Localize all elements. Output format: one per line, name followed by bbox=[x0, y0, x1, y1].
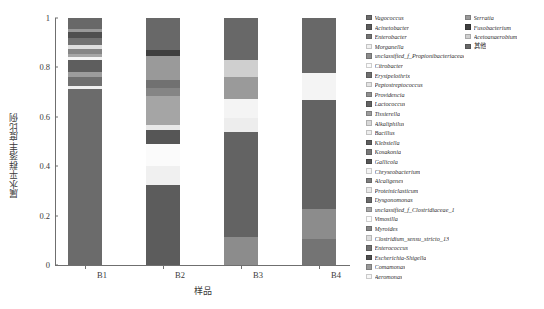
legend-swatch bbox=[366, 274, 372, 280]
legend-item[interactable]: Escherichia-Shigella bbox=[366, 253, 464, 263]
bar-segment[interactable] bbox=[302, 73, 336, 100]
bar-segment[interactable] bbox=[146, 70, 180, 80]
y-tick-label: 0.6 bbox=[39, 112, 55, 122]
bar-segment[interactable] bbox=[146, 166, 180, 185]
legend-label: Comamonas bbox=[375, 262, 406, 272]
bar-segment[interactable] bbox=[224, 77, 258, 99]
legend-item[interactable]: Aeromonas bbox=[366, 272, 464, 282]
bar-segment[interactable] bbox=[68, 60, 102, 73]
y-tick-label: 0.2 bbox=[39, 211, 55, 221]
legend-swatch bbox=[366, 63, 372, 69]
bar-segment[interactable] bbox=[68, 89, 102, 265]
legend-label: Lactococcus bbox=[375, 99, 406, 109]
legend-label: Klebsiella bbox=[375, 138, 400, 148]
legend-item[interactable]: Peptostreptococcus bbox=[366, 80, 464, 90]
legend-item[interactable]: Enterobacter bbox=[366, 32, 464, 42]
bar-segment[interactable] bbox=[224, 132, 258, 237]
legend-swatch bbox=[366, 72, 372, 78]
bar-segment[interactable] bbox=[224, 118, 258, 133]
bar-segment[interactable] bbox=[224, 18, 258, 59]
bar-segment[interactable] bbox=[68, 38, 102, 45]
legend-item[interactable]: unclassified_f_Propionibacteriaceae bbox=[366, 51, 464, 61]
legend-item[interactable]: Erysipelothrix bbox=[366, 71, 464, 81]
legend-item[interactable]: Dysgonomonas bbox=[366, 195, 464, 205]
bar-segment[interactable] bbox=[302, 18, 336, 73]
legend-swatch bbox=[366, 101, 372, 107]
bar-segment[interactable] bbox=[146, 80, 180, 88]
legend-label: Gallicola bbox=[375, 157, 398, 167]
stacked-bar[interactable] bbox=[68, 18, 102, 265]
legend-item[interactable]: Enterococcus bbox=[366, 243, 464, 253]
legend-item[interactable]: Tissierella bbox=[366, 109, 464, 119]
stacked-bar[interactable] bbox=[302, 18, 336, 265]
legend-label: Citrobacter bbox=[375, 61, 404, 71]
bar-segment[interactable] bbox=[146, 144, 180, 166]
x-tick-mark bbox=[163, 266, 164, 269]
legend-item[interactable]: Lactococcus bbox=[366, 99, 464, 109]
legend-label: Alkaliphilus bbox=[375, 119, 405, 129]
bar-segment[interactable] bbox=[302, 100, 336, 209]
legend-item[interactable]: Vimosilla bbox=[366, 214, 464, 224]
legend-swatch bbox=[366, 168, 372, 174]
legend-item[interactable]: Acinetobacter bbox=[366, 23, 464, 33]
legend-item[interactable]: Bacillus bbox=[366, 128, 464, 138]
stacked-bar[interactable] bbox=[146, 18, 180, 265]
legend-label: Clostridium_sensu_stricto_13 bbox=[375, 234, 450, 244]
bar-segment[interactable] bbox=[146, 185, 180, 265]
bar-segment[interactable] bbox=[68, 77, 102, 86]
legend-item[interactable]: Fusobacterium bbox=[465, 23, 542, 33]
legend-item[interactable]: Providencia bbox=[366, 90, 464, 100]
legend-label: Alcaligenes bbox=[375, 176, 404, 186]
legend-label: Peptostreptococcus bbox=[375, 80, 423, 90]
legend-item[interactable]: unclassified_f_Clostridiaceae_1 bbox=[366, 205, 464, 215]
legend-item[interactable]: Myroides bbox=[366, 224, 464, 234]
legend-swatch bbox=[366, 53, 372, 59]
x-axis-title: 样品 bbox=[55, 284, 350, 297]
legend-item[interactable]: Vagococcus bbox=[366, 13, 464, 23]
stacked-bar[interactable] bbox=[224, 18, 258, 265]
bar-segment[interactable] bbox=[302, 239, 336, 265]
y-tick-mark bbox=[55, 215, 58, 216]
bar-segment[interactable] bbox=[302, 209, 336, 239]
bar-segment[interactable] bbox=[146, 18, 180, 50]
legend-item[interactable]: Chryseobacterium bbox=[366, 167, 464, 177]
bar-segment[interactable] bbox=[146, 130, 180, 144]
y-tick-label: 0 bbox=[46, 260, 55, 270]
legend-item[interactable]: Alkaliphilus bbox=[366, 119, 464, 129]
y-tick-mark bbox=[55, 18, 58, 19]
legend-column-2: SerratiaFusobacteriumAcetoanaerobium其他 bbox=[465, 13, 542, 51]
legend-item[interactable]: Proteiniclasticum bbox=[366, 186, 464, 196]
legend-swatch bbox=[366, 235, 372, 241]
y-tick-label: 1 bbox=[46, 13, 55, 23]
legend-item[interactable]: Klebsiella bbox=[366, 138, 464, 148]
legend-swatch bbox=[366, 92, 372, 98]
bar-segment[interactable] bbox=[146, 56, 180, 70]
legend-item[interactable]: Comamonas bbox=[366, 262, 464, 272]
legend-swatch bbox=[465, 34, 471, 40]
legend-item[interactable]: Citrobacter bbox=[366, 61, 464, 71]
legend-swatch bbox=[366, 187, 372, 193]
legend-label: Fusobacterium bbox=[474, 23, 511, 33]
legend-item[interactable]: Serratia bbox=[465, 13, 542, 23]
legend-item[interactable]: 其他 bbox=[465, 42, 542, 52]
bar-segment[interactable] bbox=[68, 18, 102, 29]
bar-segment[interactable] bbox=[146, 96, 180, 125]
legend-swatch bbox=[366, 15, 372, 21]
legend-swatch bbox=[366, 130, 372, 136]
legend-item[interactable]: Kosakonia bbox=[366, 147, 464, 157]
legend-label: Vimosilla bbox=[375, 214, 398, 224]
bar-segment[interactable] bbox=[146, 88, 180, 95]
y-axis-title: 属水平群落丰度比例 bbox=[6, 60, 20, 250]
legend-label: Acinetobacter bbox=[375, 23, 410, 33]
legend-label: Enterococcus bbox=[375, 243, 408, 253]
bar-segment[interactable] bbox=[224, 99, 258, 118]
legend-item[interactable]: Clostridium_sensu_stricto_13 bbox=[366, 234, 464, 244]
plot-area: 00.20.40.60.81 B1B2B3B4 bbox=[55, 18, 350, 266]
legend-item[interactable]: Gallicola bbox=[366, 157, 464, 167]
legend-item[interactable]: Acetoanaerobium bbox=[465, 32, 542, 42]
legend-label: unclassified_f_Propionibacteriaceae bbox=[375, 51, 465, 61]
bar-segment[interactable] bbox=[224, 60, 258, 78]
legend-item[interactable]: Alcaligenes bbox=[366, 176, 464, 186]
legend-item[interactable]: Morganella bbox=[366, 42, 464, 52]
bar-segment[interactable] bbox=[224, 237, 258, 265]
